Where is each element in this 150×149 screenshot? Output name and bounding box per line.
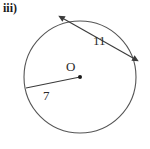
circle-diagram-canvas: [0, 0, 150, 149]
center-point-label: O: [66, 60, 75, 73]
radius-line: [26, 77, 80, 88]
part-label: iii): [3, 2, 17, 14]
center-point-dot: [78, 75, 82, 79]
chord-length-label: 11: [93, 34, 106, 47]
geometry-figure: iii) 11 7 O: [0, 0, 150, 149]
radius-length-label: 7: [43, 89, 50, 102]
